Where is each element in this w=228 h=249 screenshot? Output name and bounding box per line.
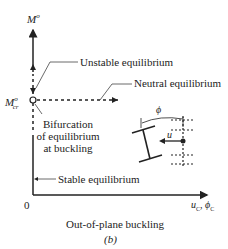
unstable-arrow-icon [30, 64, 36, 70]
caption: Out-of-plane buckling [66, 218, 164, 230]
unstable-equilibrium-label: Unstable equilibrium [80, 56, 173, 68]
y-axis [30, 30, 36, 195]
neutral-path [37, 97, 120, 103]
neutral-equilibrium-label: Neutral equilibrium [134, 77, 221, 89]
displacement-arrow-icon [159, 138, 165, 144]
bifurcation-point [30, 97, 36, 103]
phi-label: ϕ [156, 104, 161, 116]
neutral-arrow-icon [112, 97, 118, 103]
unstable-down-arrow-icon [30, 88, 36, 94]
ibeam-inset [132, 116, 195, 168]
u-label: u [167, 129, 172, 141]
y-axis-label: Mo [27, 10, 40, 25]
bifurcation-label: Bifurcation of equilibrium at buckling [36, 118, 100, 154]
x-axis-label: uC, ϕC [191, 199, 214, 215]
shear-center-dot [181, 139, 186, 144]
sub-label: (b) [104, 233, 117, 245]
mcr-label: Mocr [5, 93, 19, 113]
origin-label: 0 [24, 199, 30, 211]
stable-equilibrium-label: Stable equilibrium [58, 173, 140, 185]
